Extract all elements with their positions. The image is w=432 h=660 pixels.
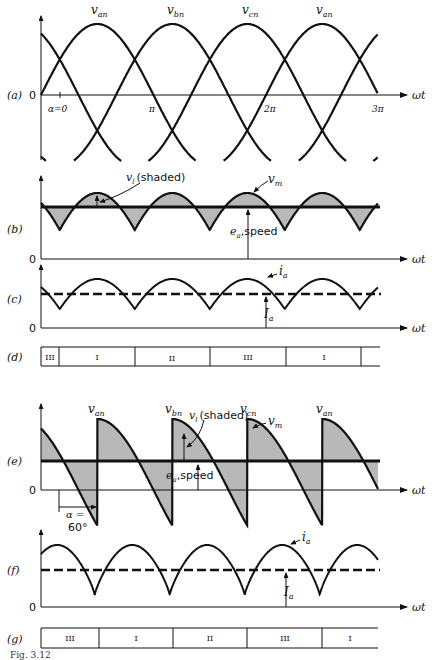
panel-f-label: (f) — [7, 564, 20, 577]
panel-c: (c) 0 ωt Ia ia — [7, 264, 426, 335]
origin-label-b: 0 — [29, 253, 36, 266]
panel-a: (a) 0 ωt α=0 π 2π 3π van vbn vcn van — [7, 3, 426, 161]
panel-b-label: (b) — [7, 223, 23, 236]
curve-label-van-1: van — [91, 3, 108, 19]
alpha-label-e-1: α = — [66, 509, 84, 520]
panel-e: (e) 0 ωt α = 60° ea,speed vl(shaded) vm … — [7, 402, 426, 534]
panel-b: (b) 0 ωt ea,speed vl(shaded) vm — [7, 171, 426, 266]
x-axis-label-a: ωt — [412, 89, 426, 102]
vl-shaded-area-b — [41, 193, 378, 230]
bar-d-segment: III — [45, 353, 54, 362]
tick-label-2pi: 2π — [263, 104, 277, 114]
three-phase-sinusoids — [41, 24, 378, 161]
curve-label-van-2: van — [316, 3, 333, 19]
x-axis-label-c: ωt — [412, 322, 426, 335]
panel-d-label: (d) — [7, 351, 23, 364]
ia-label-c: ia — [279, 264, 288, 280]
vm-label-e: vm — [268, 414, 283, 430]
curve-label-vbn: vbn — [167, 3, 184, 19]
tick-label-pi: π — [148, 104, 156, 114]
panel-g-label: (g) — [7, 633, 23, 646]
x-axis-label-e: ωt — [412, 484, 426, 497]
bar-g-segment: III — [65, 634, 74, 643]
origin-label-a: 0 — [29, 89, 36, 102]
panel-d-conduction-bar: (d) III I II III I — [7, 347, 380, 366]
curve-label-e-vbn: vbn — [165, 402, 182, 418]
origin-label-c: 0 — [29, 322, 36, 335]
ea-speed-label-b: ea,speed — [230, 225, 277, 240]
curve-label-vcn: vcn — [242, 3, 258, 19]
figure-caption-partial: Fig. 3.12 — [10, 650, 51, 660]
panel-e-label: (e) — [7, 455, 22, 468]
bar-g-segment: III — [280, 634, 289, 643]
x-axis-label-b: ωt — [412, 253, 426, 266]
bar-d-segment: I — [322, 353, 325, 362]
bar-g-segment: II — [207, 634, 213, 643]
alpha-label-e-2: 60° — [68, 521, 88, 534]
curve-label-e-van-1: van — [88, 402, 105, 418]
panel-a-label: (a) — [7, 89, 22, 102]
tick-label-3pi: 3π — [372, 104, 385, 114]
panel-g-conduction-bar: (g) III I II III I — [7, 628, 378, 648]
Ia-label-f: Ia — [283, 585, 294, 601]
bar-g-segment: I — [134, 634, 137, 643]
curve-label-e-vcn: vcn — [240, 402, 256, 418]
panel-c-label: (c) — [7, 293, 22, 306]
ia-leader-f — [291, 540, 300, 544]
panel-f: (f) 0 ωt Ia ia — [7, 530, 426, 614]
x-axis-label-f: ωt — [412, 601, 426, 614]
bar-g-segment: I — [348, 634, 351, 643]
origin-label-e: 0 — [29, 484, 36, 497]
bar-d-segment: I — [95, 353, 98, 362]
curve-label-e-van-2: van — [316, 402, 333, 418]
vl-shaded-label-b: vl(shaded) — [126, 171, 185, 186]
bar-d-segment: II — [169, 354, 175, 363]
vm-label-b: vm — [268, 172, 283, 188]
tick-label-alpha0: α=0 — [48, 104, 68, 114]
vm-leader-b — [254, 181, 268, 192]
ia-leader-c — [268, 274, 277, 277]
origin-label-f: 0 — [29, 601, 36, 614]
Ia-label-c: Ia — [263, 307, 274, 323]
ia-label-f: ia — [302, 530, 311, 546]
bar-d-segment: III — [243, 353, 252, 362]
